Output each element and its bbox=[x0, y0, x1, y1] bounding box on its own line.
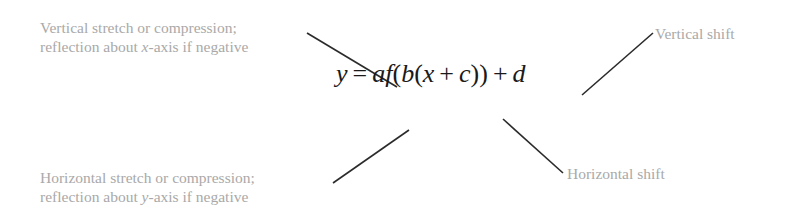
formula-equals: = bbox=[348, 59, 373, 88]
formula-x: x bbox=[423, 59, 435, 88]
formula-open-paren-1: ( bbox=[392, 59, 401, 88]
label-vertical-stretch: Vertical stretch or compression; reflect… bbox=[40, 18, 248, 56]
label-horizontal-stretch: Horizontal stretch or compression; refle… bbox=[40, 168, 255, 206]
label-vertical-stretch-line2: reflection about x-axis if negative bbox=[40, 37, 248, 56]
label-horizontal-stretch-line1: Horizontal stretch or compression; bbox=[40, 168, 255, 187]
formula-d: d bbox=[513, 59, 526, 88]
label-vertical-shift: Vertical shift bbox=[655, 24, 735, 43]
transformation-formula: y=af(b(x+c))+d bbox=[336, 58, 526, 90]
transformation-diagram: Vertical stretch or compression; reflect… bbox=[0, 0, 794, 216]
formula-close-parens: )) bbox=[471, 59, 488, 88]
label-horizontal-stretch-line2: reflection about y-axis if negative bbox=[40, 187, 255, 206]
formula-a: a bbox=[372, 59, 385, 88]
formula-c: c bbox=[459, 59, 471, 88]
formula-y: y bbox=[336, 59, 348, 88]
leader-line-vertical-shift bbox=[582, 33, 653, 95]
label-horizontal-shift: Horizontal shift bbox=[567, 164, 665, 183]
formula-open-paren-2: ( bbox=[414, 59, 423, 88]
leader-line-horizontal-stretch bbox=[333, 130, 409, 183]
formula-plus-1: + bbox=[434, 59, 459, 88]
formula-plus-2: + bbox=[488, 59, 513, 88]
formula-b: b bbox=[401, 59, 414, 88]
label-vertical-stretch-line1: Vertical stretch or compression; bbox=[40, 18, 248, 37]
leader-line-horizontal-shift bbox=[503, 119, 563, 173]
